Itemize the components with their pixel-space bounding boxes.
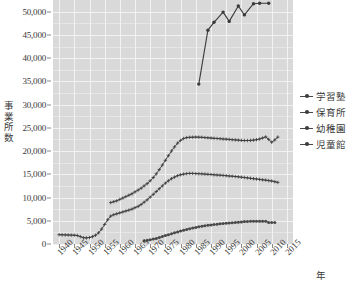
- y-tick-label: 0: [42, 239, 46, 249]
- y-tick-mark: [47, 197, 51, 198]
- series-保育所: [109, 135, 280, 204]
- legend-label: 学習塾: [313, 89, 346, 103]
- data-point: [222, 222, 225, 225]
- data-point: [243, 176, 246, 179]
- data-point: [206, 136, 209, 139]
- data-point: [91, 235, 94, 238]
- y-tick-label: 5,000: [27, 216, 46, 226]
- data-point: [164, 234, 167, 237]
- data-point: [203, 172, 206, 175]
- data-point: [182, 229, 185, 232]
- legend-item-jidoukan[interactable]: 児童館: [300, 136, 354, 152]
- data-point: [188, 227, 191, 230]
- data-point: [112, 200, 115, 203]
- chart-figure: 事業所数 05,00010,00015,00020,00025,00030,00…: [0, 0, 354, 282]
- data-point: [210, 223, 213, 226]
- y-tick-label: 35,000: [22, 76, 46, 86]
- data-point: [206, 29, 209, 32]
- data-point: [264, 178, 267, 181]
- data-point: [213, 223, 216, 226]
- data-point: [243, 220, 246, 223]
- data-point: [112, 213, 115, 216]
- data-point: [191, 227, 194, 230]
- y-tick-mark: [47, 81, 51, 82]
- data-point: [221, 174, 224, 177]
- data-point: [167, 233, 170, 236]
- data-point: [197, 82, 200, 85]
- data-point: [243, 13, 246, 16]
- data-point: [258, 2, 261, 5]
- data-point: [261, 136, 264, 139]
- data-point: [173, 175, 176, 178]
- data-point: [209, 136, 212, 139]
- data-point: [228, 138, 231, 141]
- data-point: [191, 136, 194, 139]
- data-point: [197, 136, 200, 139]
- data-point: [115, 199, 118, 202]
- data-point: [118, 211, 121, 214]
- legend-item-hoikusho[interactable]: 保育所: [300, 104, 354, 120]
- data-point: [255, 220, 258, 223]
- data-point: [179, 230, 182, 233]
- legend-item-gakushujuku[interactable]: 学習塾: [300, 88, 354, 104]
- legend-label: 保育所: [313, 105, 346, 119]
- series-layer: [53, 0, 293, 244]
- y-tick-mark: [47, 34, 51, 35]
- y-tick-mark: [47, 104, 51, 105]
- data-point: [234, 175, 237, 178]
- y-tick-label: 15,000: [22, 169, 46, 179]
- data-point: [228, 20, 231, 23]
- y-tick-mark: [47, 58, 51, 59]
- data-point: [206, 224, 209, 227]
- data-point: [240, 220, 243, 223]
- y-tick-label: 10,000: [22, 193, 46, 203]
- data-point: [73, 234, 76, 237]
- y-tick-label: 20,000: [22, 146, 46, 156]
- data-point: [261, 178, 264, 181]
- data-point: [197, 225, 200, 228]
- data-point: [246, 176, 249, 179]
- data-point: [231, 221, 234, 224]
- data-point: [127, 194, 130, 197]
- data-point: [252, 138, 255, 141]
- data-point: [276, 181, 279, 184]
- data-point: [118, 198, 121, 201]
- data-point: [173, 231, 176, 234]
- line-marker-icon: [300, 107, 313, 117]
- data-point: [255, 138, 258, 141]
- series-line: [59, 173, 278, 238]
- line-marker-icon: [300, 139, 313, 149]
- y-axis-title: 事業所数: [3, 101, 15, 143]
- data-point: [249, 177, 252, 180]
- y-axis: 事業所数 05,00010,00015,00020,00025,00030,00…: [0, 0, 53, 244]
- series-line: [199, 3, 269, 84]
- data-point: [200, 225, 203, 228]
- data-point: [225, 174, 228, 177]
- data-point: [231, 138, 234, 141]
- data-point: [161, 235, 164, 238]
- data-point: [179, 173, 182, 176]
- data-point: [203, 224, 206, 227]
- data-point: [200, 136, 203, 139]
- plot-panel: [53, 0, 293, 244]
- legend-item-youchien[interactable]: 幼稚園: [300, 120, 354, 136]
- y-tick-label: 25,000: [22, 123, 46, 133]
- data-point: [194, 226, 197, 229]
- y-tick-label: 45,000: [22, 30, 46, 40]
- data-point: [261, 220, 264, 223]
- data-point: [121, 196, 124, 199]
- data-point: [246, 139, 249, 142]
- data-point: [194, 135, 197, 138]
- data-point: [206, 173, 209, 176]
- data-point: [243, 139, 246, 142]
- series-児童館: [143, 220, 277, 243]
- data-point: [188, 136, 191, 139]
- data-point: [64, 233, 67, 236]
- data-point: [185, 228, 188, 231]
- data-point: [212, 21, 215, 24]
- data-point: [237, 221, 240, 224]
- series-line: [111, 137, 278, 203]
- line-marker-icon: [300, 123, 313, 133]
- data-point: [194, 172, 197, 175]
- data-point: [267, 2, 270, 5]
